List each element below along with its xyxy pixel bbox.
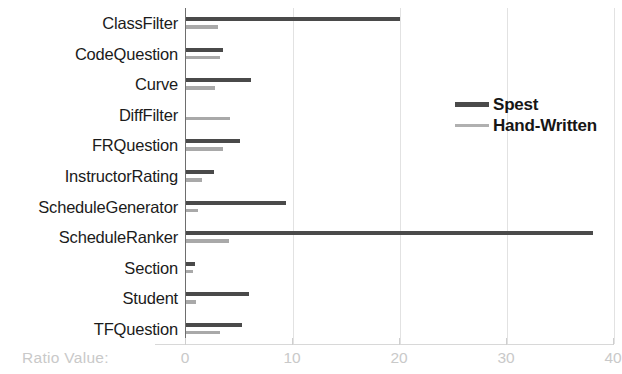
bar-instructorrating-hand-written xyxy=(186,178,202,182)
bar-section-spest xyxy=(186,262,195,266)
bar-tfquestion-spest xyxy=(186,323,242,327)
bar-frquestion-hand-written xyxy=(186,147,223,151)
category-axis-labels: ClassFilterCodeQuestionCurveDiffFilterFR… xyxy=(0,8,182,344)
x-tick-label-30: 30 xyxy=(497,349,514,367)
bar-scheduleranker-spest xyxy=(186,231,593,235)
x-tick-label-40: 40 xyxy=(604,349,621,367)
category-label-student: Student xyxy=(123,289,178,308)
x-tick-40 xyxy=(613,338,614,345)
gridline-10 xyxy=(293,8,294,344)
x-tick-label-10: 10 xyxy=(283,349,300,367)
legend-item-spest: Spest xyxy=(455,94,615,115)
bar-student-hand-written xyxy=(186,300,196,304)
x-tick-20 xyxy=(399,338,400,345)
bar-schedulegenerator-hand-written xyxy=(186,209,198,213)
legend-item-hand-written: Hand-Written xyxy=(455,115,615,136)
x-axis-title: Ratio Value: xyxy=(22,349,109,367)
bar-frquestion-spest xyxy=(186,139,240,143)
legend-label-hand-written: Hand-Written xyxy=(493,116,597,136)
bar-difffilter-hand-written xyxy=(186,117,230,121)
gridline-20 xyxy=(400,8,401,344)
category-label-curve: Curve xyxy=(135,75,178,94)
gridline-40 xyxy=(614,8,615,344)
bar-section-hand-written xyxy=(186,270,193,274)
bar-scheduleranker-hand-written xyxy=(186,239,229,243)
bar-curve-hand-written xyxy=(186,86,215,90)
category-label-difffilter: DiffFilter xyxy=(119,105,178,124)
legend-swatch-spest-icon xyxy=(455,102,489,107)
category-label-section: Section xyxy=(124,258,178,277)
category-label-classfilter: ClassFilter xyxy=(102,14,178,33)
category-label-instructorrating: InstructorRating xyxy=(65,167,178,186)
bar-student-spest xyxy=(186,292,249,296)
category-label-schedulegenerator: ScheduleGenerator xyxy=(38,197,178,216)
x-tick-label-0: 0 xyxy=(181,349,190,367)
bar-curve-spest xyxy=(186,78,251,82)
x-tick-30 xyxy=(506,338,507,345)
legend-label-spest: Spest xyxy=(493,95,538,115)
bar-schedulegenerator-spest xyxy=(186,201,286,205)
plot-area xyxy=(185,8,613,344)
category-label-codequestion: CodeQuestion xyxy=(75,44,178,63)
bar-codequestion-spest xyxy=(186,48,223,52)
x-tick-label-20: 20 xyxy=(390,349,407,367)
x-tick-10 xyxy=(292,338,293,345)
bar-codequestion-hand-written xyxy=(186,56,220,60)
chart-legend: Spest Hand-Written xyxy=(455,94,615,136)
gridline-30 xyxy=(507,8,508,344)
category-label-scheduleranker: ScheduleRanker xyxy=(59,228,178,247)
category-label-frquestion: FRQuestion xyxy=(92,136,178,155)
bar-instructorrating-spest xyxy=(186,170,214,174)
x-axis-line xyxy=(155,344,614,345)
category-label-tfquestion: TFQuestion xyxy=(94,319,178,338)
x-tick-0 xyxy=(185,338,186,345)
bar-classfilter-hand-written xyxy=(186,25,218,29)
bar-classfilter-spest xyxy=(186,17,400,21)
bar-tfquestion-hand-written xyxy=(186,331,220,335)
legend-swatch-hand-written-icon xyxy=(455,124,489,128)
